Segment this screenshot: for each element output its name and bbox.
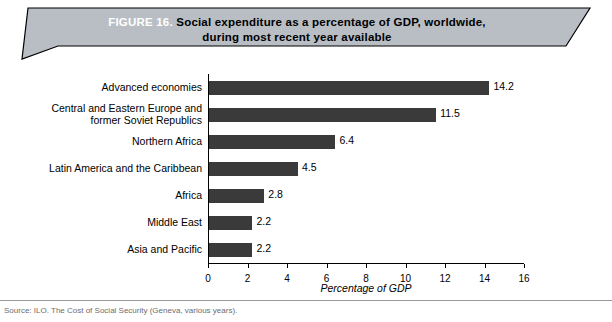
x-tick: [524, 264, 525, 268]
x-tick: [327, 264, 328, 268]
bar: [209, 81, 489, 95]
banner-text-block: FIGURE 16. Social expenditure as a perce…: [62, 15, 532, 45]
bar: [209, 216, 252, 230]
plot-area: 0246810121416 14.211.56.44.52.82.22.2: [208, 74, 524, 264]
bar-row: 14.2: [209, 81, 525, 95]
x-tick: [366, 264, 367, 268]
figure-number-label: FIGURE 16.: [108, 16, 173, 28]
figure-banner: FIGURE 16. Social expenditure as a perce…: [0, 6, 612, 62]
category-label: Northern Africa: [2, 135, 202, 147]
bar-row: 2.2: [209, 243, 525, 257]
bar: [209, 189, 264, 203]
bar-row: 2.2: [209, 216, 525, 230]
bar-value-label: 14.2: [493, 80, 513, 92]
bar: [209, 162, 298, 176]
bar: [209, 108, 436, 122]
category-label: Latin America and the Caribbean: [2, 162, 202, 174]
category-label: Middle East: [2, 216, 202, 228]
bar-row: 2.8: [209, 189, 525, 203]
bar: [209, 135, 335, 149]
category-label: Africa: [2, 189, 202, 201]
category-axis-labels: Advanced economiesCentral and Eastern Eu…: [0, 74, 202, 264]
x-tick: [445, 264, 446, 268]
source-note: Source: ILO. The Cost of Social Security…: [4, 306, 604, 315]
x-tick: [248, 264, 249, 268]
bar-value-label: 11.5: [440, 107, 460, 119]
x-tick: [287, 264, 288, 268]
bar-row: 11.5: [209, 108, 525, 122]
bar-row: 6.4: [209, 135, 525, 149]
category-label: Asia and Pacific: [2, 243, 202, 255]
category-label: Central and Eastern Europe andformer Sov…: [2, 102, 202, 126]
x-axis-title: Percentage of GDP: [208, 282, 524, 294]
bar-value-label: 6.4: [339, 134, 354, 146]
x-tick: [208, 264, 209, 268]
bar-row: 4.5: [209, 162, 525, 176]
bar-value-label: 2.2: [256, 215, 271, 227]
bar-value-label: 4.5: [302, 161, 317, 173]
banner-title-line1: Social expenditure as a percentage of GD…: [176, 16, 485, 28]
x-tick: [485, 264, 486, 268]
footer-divider: [0, 300, 612, 301]
banner-title-line2: during most recent year available: [202, 31, 391, 43]
bar: [209, 243, 252, 257]
category-label: Advanced economies: [2, 81, 202, 93]
bar-chart: Advanced economiesCentral and Eastern Eu…: [0, 66, 612, 296]
x-tick: [406, 264, 407, 268]
bar-value-label: 2.2: [256, 242, 271, 254]
bar-value-label: 2.8: [268, 188, 283, 200]
